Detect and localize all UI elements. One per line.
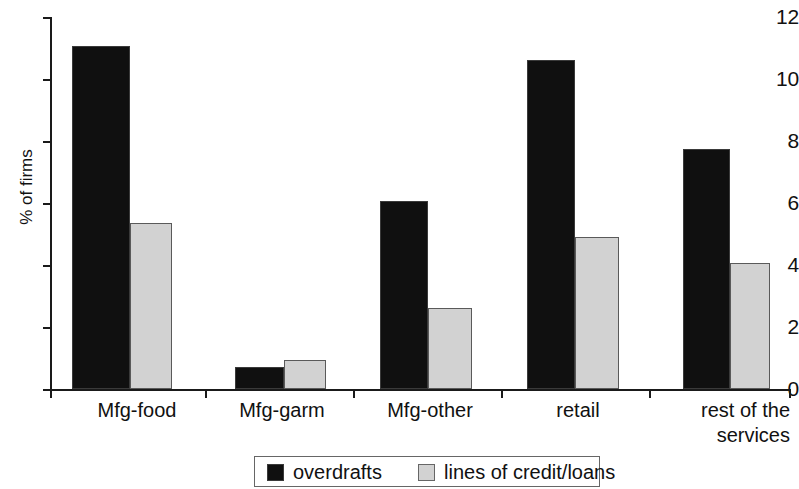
bar-overdrafts-mfg-garm — [235, 367, 284, 389]
legend-item-overdrafts: overdrafts — [267, 460, 382, 484]
bar-lines-of-credit-mfg-food — [130, 223, 172, 389]
legend-swatch-light-square-icon — [418, 464, 435, 481]
y-axis-tick-label: 12 — [765, 6, 799, 27]
x-axis-tick — [649, 389, 651, 398]
bar-overdrafts-mfg-other — [380, 201, 428, 389]
y-axis-tick — [43, 141, 52, 143]
y-axis-tick-label: 4 — [765, 254, 799, 275]
x-axis-label-mfg-food: Mfg-food — [62, 398, 212, 423]
y-axis-title: % of firms — [18, 127, 36, 247]
x-axis-label-retail: retail — [504, 398, 652, 423]
bar-lines-of-credit-retail — [575, 237, 619, 389]
y-axis-tick-label: 8 — [765, 130, 799, 151]
x-axis-tick — [205, 389, 207, 398]
bar-overdrafts-rest-of-services — [683, 149, 730, 389]
x-axis-line — [50, 389, 790, 391]
legend-label-overdrafts: overdrafts — [293, 461, 382, 483]
x-axis-label-mfg-garm: Mfg-garm — [208, 398, 356, 423]
bar-overdrafts-retail — [527, 60, 575, 389]
legend-label-lines-of-credit: lines of credit/loans — [444, 461, 615, 483]
y-axis-tick — [43, 17, 52, 19]
y-axis-tick-label: 2 — [765, 316, 799, 337]
bar-overdrafts-mfg-food — [72, 46, 130, 389]
bar-lines-of-credit-rest-of-services — [730, 263, 770, 389]
x-axis-tick — [50, 389, 52, 398]
y-axis-tick-label: 6 — [765, 192, 799, 213]
y-axis-tick — [43, 327, 52, 329]
x-axis-tick — [501, 389, 503, 398]
bar-chart: 12 10 8 6 4 2 0 % of firms Mfg-food Mfg-… — [0, 0, 799, 489]
legend-swatch-dark-square-icon — [267, 464, 284, 481]
bar-lines-of-credit-mfg-other — [428, 308, 472, 389]
y-axis-tick — [43, 265, 52, 267]
x-axis-label-mfg-other: Mfg-other — [356, 398, 504, 423]
bar-lines-of-credit-mfg-garm — [284, 360, 326, 389]
legend: overdrafts lines of credit/loans — [254, 456, 600, 487]
y-axis-tick — [43, 79, 52, 81]
x-axis-label-rest-of-services: rest of the services — [652, 398, 790, 448]
y-axis-tick-label: 10 — [765, 68, 799, 89]
x-axis-tick — [789, 389, 791, 398]
x-axis-tick — [353, 389, 355, 398]
legend-item-lines-of-credit: lines of credit/loans — [418, 460, 615, 484]
y-axis-tick — [43, 203, 52, 205]
